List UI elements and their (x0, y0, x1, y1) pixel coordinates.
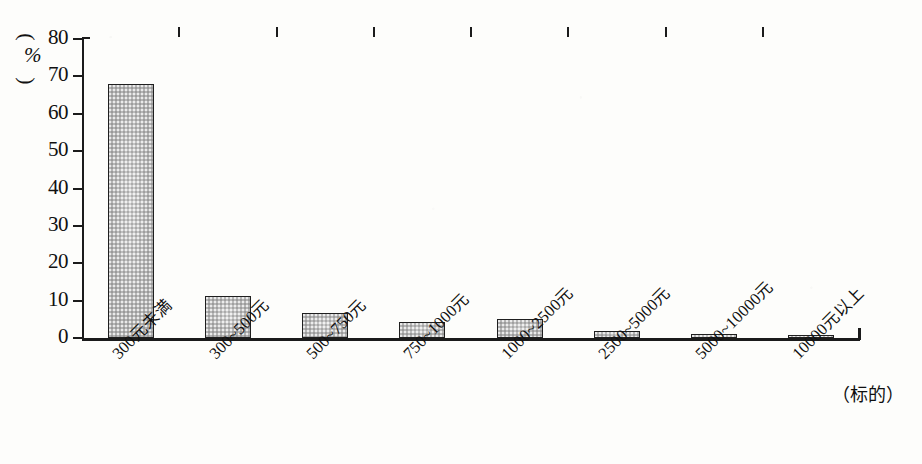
y-axis-tick-label: 70 (48, 63, 68, 85)
y-axis-tick: 60 (73, 113, 82, 115)
x-axis-tick (567, 27, 569, 37)
y-axis-tick: 50 (73, 150, 82, 152)
y-axis-tick: 80 (73, 38, 82, 40)
y-axis-tick-label: 0 (58, 325, 68, 347)
x-axis-tick (762, 27, 764, 37)
x-axis-tick (665, 27, 667, 37)
y-axis-tick: 30 (73, 225, 82, 227)
y-axis-tick-label: 60 (48, 101, 68, 123)
y-axis-tick: 0 (73, 337, 82, 339)
y-axis-top-cap (82, 37, 90, 39)
plot-area: 80706050403020100 (82, 37, 860, 340)
y-axis-tick: 20 (73, 262, 82, 264)
x-axis-line (82, 338, 860, 341)
y-axis-tick: 40 (73, 188, 82, 190)
y-axis-tick-label: 10 (48, 288, 68, 310)
x-axis-tick (276, 27, 278, 37)
y-axis-line (82, 37, 84, 340)
y-axis-tick: 70 (73, 75, 82, 77)
y-axis-tick: 10 (73, 300, 82, 302)
x-axis-end-cap (858, 328, 861, 340)
y-axis-tick-label: 20 (48, 250, 68, 272)
y-axis-unit-symbol: % (24, 44, 42, 66)
y-axis-unit-close-paren: ) (22, 77, 32, 84)
y-axis-tick-label: 30 (48, 213, 68, 235)
y-axis-unit-open-paren: ( (22, 33, 32, 40)
y-axis-tick-label: 40 (48, 176, 68, 198)
x-axis-tick (373, 27, 375, 37)
y-axis-tick-label: 50 (48, 138, 68, 160)
x-axis-tick (470, 27, 472, 37)
y-axis-tick-label: 80 (48, 26, 68, 48)
x-axis-title: （标的） (832, 380, 904, 406)
x-axis-tick (178, 27, 180, 37)
bar-chart: ( % ) 80706050403020100 300元未満300~500元50… (0, 0, 922, 464)
bar (108, 84, 154, 338)
